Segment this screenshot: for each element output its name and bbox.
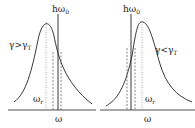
left-hw0-label: hω0 bbox=[52, 5, 69, 15]
right-omega-axis-label: ω bbox=[144, 115, 151, 124]
left-wr-label: ωr bbox=[33, 95, 43, 105]
left-omega-axis-label: ω bbox=[55, 115, 62, 124]
left-panel bbox=[8, 14, 96, 110]
right-condition-label: γ<γT bbox=[155, 46, 177, 56]
right-hw0-label: hω0 bbox=[123, 5, 140, 15]
right-wr-label: ωr bbox=[145, 95, 155, 105]
left-condition-label: γ>γT bbox=[9, 41, 31, 51]
diagram-canvas bbox=[0, 0, 195, 128]
